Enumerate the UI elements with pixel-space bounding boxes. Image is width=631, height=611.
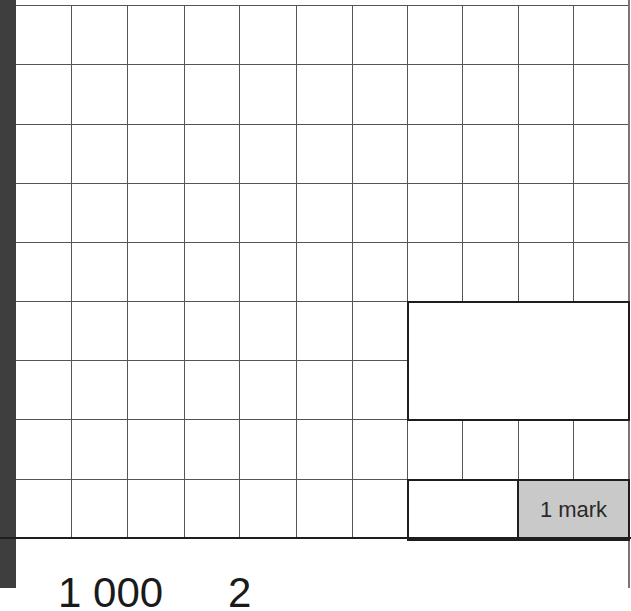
grid-line — [352, 5, 353, 538]
next-question-text-partial: 2 — [228, 572, 251, 611]
small-answer-box[interactable] — [407, 479, 518, 541]
grid-line — [518, 5, 519, 538]
grid-line — [127, 5, 128, 538]
grid-line — [16, 124, 629, 125]
mark-label: 1 mark — [540, 497, 607, 523]
grid-line — [462, 5, 463, 538]
grid-line — [16, 183, 629, 184]
page-edge-strip — [0, 0, 16, 588]
grid-line — [184, 5, 185, 538]
grid-line — [407, 5, 408, 538]
grid-line — [16, 64, 629, 65]
working-grid — [16, 5, 629, 538]
mark-allocation-box: 1 mark — [517, 479, 630, 541]
answer-box[interactable] — [407, 301, 630, 421]
grid-line — [71, 5, 72, 538]
grid-line — [16, 242, 629, 243]
grid-line — [16, 5, 629, 6]
grid-line — [239, 5, 240, 538]
grid-line — [296, 5, 297, 538]
question-divider — [0, 537, 631, 539]
next-question-text-partial: 1 000 — [58, 572, 163, 611]
grid-line — [573, 5, 574, 538]
